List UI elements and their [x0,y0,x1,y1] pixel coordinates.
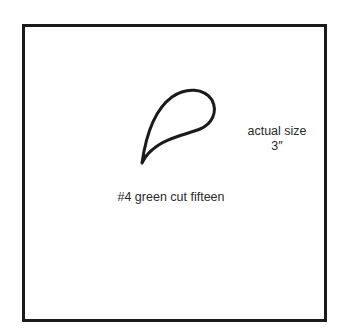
cut-instruction: #4 green cut fifteen [100,190,242,205]
actual-size-label: actual size [238,124,316,139]
size-label-block: actual size 3″ [238,124,316,154]
teardrop-shape-outline [0,0,343,331]
size-value: 3″ [238,139,316,154]
